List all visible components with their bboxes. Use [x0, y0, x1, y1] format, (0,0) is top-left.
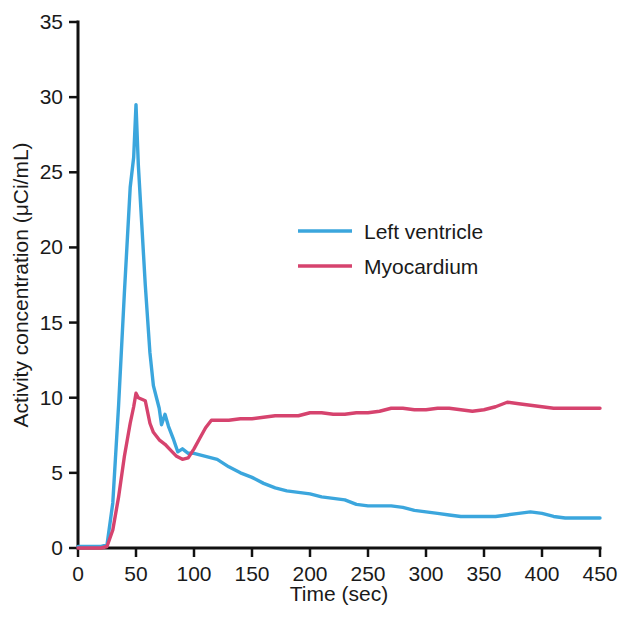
y-tick-label: 20: [40, 235, 63, 258]
x-axis-title: Time (sec): [290, 582, 388, 605]
y-axis-tick-labels: 05101520253035: [40, 10, 63, 559]
x-tick-label: 450: [582, 562, 617, 585]
y-tick-label: 35: [40, 10, 63, 33]
y-tick-label: 25: [40, 160, 63, 183]
x-tick-label: 400: [524, 562, 559, 585]
data-series-group: [78, 105, 600, 548]
activity-concentration-line-chart: 05101520253035 0501001502002503003504004…: [0, 0, 628, 622]
chart-figure: 05101520253035 0501001502002503003504004…: [0, 0, 628, 622]
x-tick-label: 100: [176, 562, 211, 585]
series-line-left-ventricle: [78, 105, 600, 547]
legend-label-myocardium: Myocardium: [364, 255, 478, 278]
x-tick-label: 0: [72, 562, 84, 585]
x-tick-label: 350: [466, 562, 501, 585]
x-tick-label: 150: [234, 562, 269, 585]
chart-legend: Left ventricle Myocardium: [298, 220, 483, 278]
x-tick-label: 50: [124, 562, 147, 585]
axis-lines: [78, 22, 600, 548]
y-axis-title: Activity concentration (μCi/mL): [9, 142, 32, 427]
series-line-myocardium: [78, 393, 600, 548]
y-tick-label: 5: [51, 461, 63, 484]
y-tick-label: 10: [40, 386, 63, 409]
legend-label-left-ventricle: Left ventricle: [364, 220, 483, 243]
y-tick-label: 30: [40, 85, 63, 108]
y-tick-label: 15: [40, 311, 63, 334]
x-tick-label: 300: [408, 562, 443, 585]
y-tick-label: 0: [51, 536, 63, 559]
